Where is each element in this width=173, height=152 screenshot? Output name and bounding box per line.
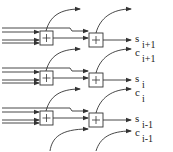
adder-array-diagram: s i+1 c i+1 s i c i s i-1 c i-1 xyxy=(0,0,173,152)
carry-label: c xyxy=(135,126,140,138)
sum-index: i+1 xyxy=(142,39,155,50)
stage-i: s i c i xyxy=(2,49,145,104)
sum-index: i xyxy=(142,79,145,90)
carry-label: c xyxy=(135,86,140,98)
stage-i-plus-1: s i+1 c i+1 xyxy=(2,4,155,64)
carry-index: i+1 xyxy=(142,53,155,64)
carry-in-curve xyxy=(96,131,131,151)
sum-label: s xyxy=(135,32,139,44)
sum-label: s xyxy=(135,72,139,84)
stage-i-minus-1: s i-1 c i-1 xyxy=(2,89,153,144)
sum-label: s xyxy=(135,112,139,124)
carry-label: c xyxy=(135,46,140,58)
carry-index: i-1 xyxy=(142,133,153,144)
carry-in-curve xyxy=(50,129,88,151)
carry-index: i xyxy=(142,93,145,104)
sum-index: i-1 xyxy=(142,119,153,130)
